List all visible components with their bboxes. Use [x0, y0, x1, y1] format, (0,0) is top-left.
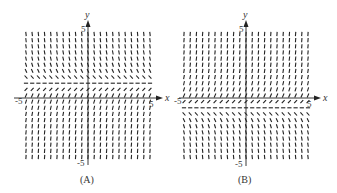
slope-segment [270, 136, 271, 140]
slope-segment [31, 88, 34, 91]
slope-segment [295, 136, 296, 140]
slope-segment [75, 44, 76, 48]
slope-segment [258, 118, 260, 122]
slope-segment [233, 87, 234, 91]
slope-segment [81, 112, 82, 116]
slope-segment [131, 50, 132, 54]
slope-segment [289, 94, 291, 98]
slope-segment [214, 118, 216, 122]
slope-segment [221, 75, 222, 79]
slope-segment [208, 94, 210, 98]
slope-segment [143, 69, 145, 73]
slope-segment [32, 44, 33, 48]
y-tick-top-b: 5 [239, 24, 244, 34]
slope-segment [277, 143, 278, 147]
slope-segment [269, 100, 272, 103]
slope-segment [31, 76, 34, 79]
slope-segment [184, 69, 185, 73]
slope-segment [131, 94, 133, 98]
slope-segment [81, 118, 82, 122]
slope-segment [183, 118, 185, 122]
slope-field-figure: y x 5 -5 -5 5 (A) y x 5 -5 -5 5 (B) [0, 0, 337, 193]
slope-segment [63, 50, 64, 54]
slope-segment [252, 143, 253, 147]
slope-segment [63, 63, 64, 67]
slope-segment [221, 124, 222, 128]
slope-segment [150, 44, 151, 48]
slope-segment [38, 106, 39, 110]
slope-segment [233, 124, 234, 128]
slope-segment [125, 124, 126, 128]
slope-segment [195, 100, 198, 103]
slope-segment [264, 124, 265, 128]
slope-segment [150, 50, 151, 54]
slope-segment [112, 94, 114, 98]
slope-segment [137, 50, 138, 54]
slope-segment [258, 130, 259, 134]
slope-segment [252, 69, 253, 73]
slope-segment [307, 112, 310, 115]
slope-segment [227, 149, 228, 153]
slope-segment [300, 100, 303, 103]
slope-segment [130, 76, 133, 79]
slope-segment [295, 143, 296, 147]
slope-segment [111, 88, 114, 91]
slope-segment [26, 124, 27, 128]
slope-segment [100, 69, 102, 73]
slope-segment [100, 44, 101, 48]
slope-segment [239, 118, 241, 122]
slope-segment [38, 124, 39, 128]
slope-segment [106, 94, 108, 98]
slope-segment [289, 63, 290, 67]
slope-segment [289, 143, 290, 147]
y-axis-label-a: y [84, 9, 90, 20]
slope-segment [100, 63, 101, 67]
slope-segment [271, 63, 272, 67]
slope-segment [125, 100, 126, 104]
slope-segment [111, 76, 114, 79]
slope-segment [227, 136, 228, 140]
slope-segment [57, 118, 58, 122]
slope-segment [56, 88, 59, 91]
slope-segment [196, 63, 197, 67]
slope-segment [50, 69, 52, 73]
slope-segment [137, 63, 138, 67]
y-tick-bottom-a: -5 [77, 158, 85, 168]
slope-segment [233, 149, 234, 153]
slope-segment [276, 112, 279, 115]
slope-segment [270, 124, 271, 128]
slope-segment [81, 57, 82, 61]
slope-segment [99, 88, 102, 91]
slope-segment [264, 69, 265, 73]
slope-segment [81, 44, 82, 48]
slope-segment [184, 81, 185, 85]
slope-segment [57, 106, 58, 110]
slope-segment [270, 69, 271, 73]
slope-segment [282, 100, 285, 103]
slope-segment [68, 76, 71, 79]
slope-segment [227, 81, 228, 85]
slope-segment [183, 94, 185, 98]
slope-segment [112, 63, 113, 67]
slope-segment [264, 81, 265, 85]
slope-segment [239, 94, 241, 98]
slope-segment [149, 63, 150, 67]
slope-segment [307, 87, 308, 91]
slope-segment [106, 69, 108, 73]
slope-segment [307, 118, 309, 122]
slope-segment [295, 63, 296, 67]
slope-segment [215, 69, 216, 73]
slope-segment [196, 136, 197, 140]
y-tick-top-a: 5 [81, 24, 86, 34]
slope-segment [196, 69, 197, 73]
slope-segment [308, 81, 309, 85]
slope-segment [57, 38, 58, 42]
slope-segment [119, 106, 120, 110]
slope-segment [240, 149, 241, 153]
slope-segment [105, 88, 108, 91]
slope-segment [82, 38, 83, 42]
slope-segment [38, 50, 39, 54]
slope-segment [214, 94, 216, 98]
slope-segment [271, 149, 272, 153]
slope-segment [143, 100, 144, 104]
